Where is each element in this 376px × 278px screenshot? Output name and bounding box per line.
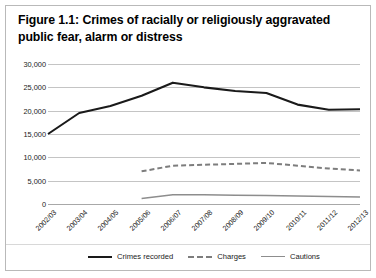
legend-swatch-charges-icon (188, 256, 212, 258)
legend-swatch-crimes-recorded-icon (88, 256, 112, 258)
series-line-charges (142, 163, 360, 171)
legend-label-charges: Charges (217, 252, 246, 261)
legend-divider (6, 244, 370, 245)
legend-item-charges: Charges (188, 252, 246, 261)
chart-legend: Crimes recorded Charges Cautions (48, 252, 360, 261)
chart-plot-area: 05,00010,00015,00020,00025,00030,000 200… (0, 0, 376, 278)
legend-label-crimes-recorded: Crimes recorded (117, 252, 173, 261)
series-lines-group (0, 0, 376, 278)
legend-swatch-cautions-icon (261, 256, 285, 257)
legend-item-crimes-recorded: Crimes recorded (88, 252, 173, 261)
figure-container: Figure 1.1: Crimes of racially or religi… (0, 0, 376, 278)
series-line-cautions (142, 195, 360, 199)
legend-label-cautions: Cautions (290, 252, 320, 261)
legend-item-cautions: Cautions (261, 252, 320, 261)
series-line-crimes-recorded (48, 83, 360, 134)
